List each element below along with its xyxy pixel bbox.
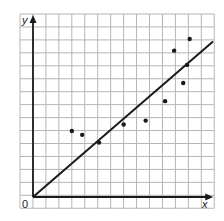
data-point — [163, 99, 167, 103]
y-axis-label: y — [22, 15, 28, 26]
data-point — [97, 140, 101, 144]
data-point — [121, 122, 125, 126]
scatter-plot — [0, 0, 224, 221]
x-axis-label: x — [202, 199, 208, 210]
data-point — [172, 48, 176, 52]
data-point — [70, 129, 74, 133]
data-point — [143, 118, 147, 122]
data-point — [181, 81, 185, 85]
data-point — [185, 63, 189, 67]
origin-label: 0 — [22, 199, 28, 210]
data-point — [80, 133, 84, 137]
grid-lines — [20, 14, 214, 208]
y-axis-arrow-icon — [30, 15, 37, 23]
data-point — [187, 37, 191, 41]
axes — [30, 15, 214, 201]
